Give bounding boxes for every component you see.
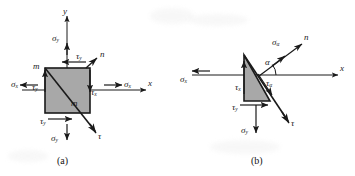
- square-element: [45, 68, 90, 113]
- label-x-axis-a: x: [148, 79, 152, 88]
- angle-alpha-arc: [272, 65, 276, 75]
- label-tau-shear-b: τ: [291, 119, 294, 128]
- label-sigma-x-left-b: σx: [180, 75, 187, 85]
- label-tau-y-bottom-b: τy: [232, 103, 238, 113]
- label-tau-y-top: τy: [76, 52, 82, 62]
- label-tau-x-left-b: τx: [235, 83, 241, 93]
- label-corner-m-left: m: [33, 62, 40, 71]
- label-angle-alpha: α: [265, 58, 270, 67]
- label-normal-n-b: n: [304, 33, 309, 42]
- label-sigma-y-bottom-a: σy: [51, 134, 58, 144]
- caption-panel-b: (b): [251, 155, 263, 166]
- label-tau-alpha: τα: [266, 79, 272, 89]
- label-corner-m-inner: m: [71, 99, 78, 108]
- label-sigma-y-top: σy: [52, 34, 59, 44]
- label-tau-x-right: τx: [91, 88, 97, 98]
- sigma-alpha-arrow: [272, 56, 285, 66]
- label-tau-y-left: τy: [32, 83, 38, 93]
- stress-element-figure: [0, 0, 355, 176]
- label-sigma-alpha: σα: [272, 38, 279, 48]
- label-tau-diagonal: τ: [98, 132, 101, 141]
- label-y-axis-a: y: [63, 7, 67, 16]
- label-tau-y-bottom-a: τy: [40, 117, 46, 127]
- normal-n-arrow: [86, 58, 97, 68]
- tau-diagonal-arrow: [90, 124, 96, 133]
- caption-panel-a: (a): [57, 155, 68, 166]
- label-normal-n-a: n: [100, 50, 105, 59]
- tau-incline-arrow: [282, 112, 289, 123]
- label-sigma-x-right-a: σx: [124, 80, 131, 90]
- label-sigma-x-left-a: σx: [11, 80, 18, 90]
- label-x-axis-b: x: [340, 64, 344, 73]
- label-sigma-y-bottom-b: σy: [241, 126, 248, 136]
- panel-a: [20, 16, 146, 140]
